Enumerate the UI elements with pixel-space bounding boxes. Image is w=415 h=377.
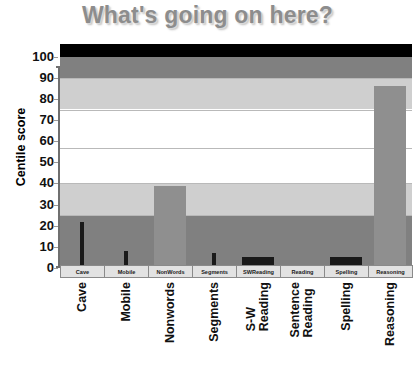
y-tickmark-40 [53, 183, 58, 184]
x-label-line: Nonwords [164, 282, 177, 343]
y-tick-10: 10 [40, 242, 54, 252]
legend-cell-reasoning: Reasoning [368, 265, 413, 278]
y-tickmark-60 [53, 141, 58, 142]
x-label-slot-2: Nonwords [148, 280, 192, 376]
x-label-slot-4: S-WReading [236, 280, 280, 376]
x-label-nonwords: Nonwords [164, 282, 177, 343]
x-label-line: Reading [258, 282, 271, 331]
bar-cave [80, 222, 84, 268]
y-tick-80: 80 [40, 94, 54, 104]
chart-screenshot: What's going on here? Centile score 1009… [0, 0, 415, 377]
x-label-line: Reasoning [384, 282, 397, 346]
y-tick-50: 50 [40, 157, 54, 167]
x-label-s-w-reading: S-WReading [245, 282, 271, 331]
bar-nonwords [154, 186, 186, 268]
x-label-sentence-reading: SentenceReading [289, 282, 315, 338]
x-label-slot-1: Mobile [104, 280, 148, 376]
y-tickmark-90 [53, 78, 58, 79]
y-tickmark-100 [53, 57, 58, 58]
x-label-line: Reading [302, 282, 315, 338]
y-tickmark-70 [53, 120, 58, 121]
y-tickmark-30 [53, 205, 58, 206]
y-tick-40: 40 [40, 178, 54, 188]
x-label-spelling: Spelling [340, 282, 353, 331]
y-axis-tick-labels: 1009080706050403020100 [24, 60, 54, 276]
y-tickmark-50 [53, 162, 58, 163]
x-label-line: Segments [208, 282, 221, 342]
page-title: What's going on here? [0, 2, 415, 29]
legend-cell-reading: Reading [280, 265, 325, 278]
bar-reasoning [374, 86, 406, 268]
y-tick-70: 70 [40, 115, 54, 125]
x-label-cave: Cave [76, 282, 89, 312]
x-label-slot-3: Segments [192, 280, 236, 376]
y-tick-60: 60 [40, 136, 54, 146]
legend-cell-nonwords: NonWords [148, 265, 193, 278]
legend-cell-swreading: SWReading [236, 265, 281, 278]
plot-area [60, 44, 412, 268]
y-tickmark-0 [53, 268, 58, 269]
y-tickmark-80 [53, 99, 58, 100]
y-tick-30: 30 [40, 200, 54, 210]
x-label-slot-7: Reasoning [368, 280, 412, 376]
legend-cell-spelling: Spelling [324, 265, 369, 278]
y-tick-100: 100 [32, 52, 54, 62]
x-label-slot-0: Cave [60, 280, 104, 376]
legend-cell-segments: Segments [192, 265, 237, 278]
y-tick-20: 20 [40, 221, 54, 231]
x-label-line: Cave [76, 282, 89, 312]
y-tick-90: 90 [40, 73, 54, 83]
legend-cell-mobile: Mobile [104, 265, 149, 278]
category-legend-strip: CaveMobileNonWordsSegmentsSWReadingReadi… [60, 265, 412, 278]
x-label-reasoning: Reasoning [384, 282, 397, 346]
y-tickmark-10 [53, 247, 58, 248]
x-label-slot-6: Spelling [324, 280, 368, 376]
x-label-line: Spelling [340, 282, 353, 331]
x-label-mobile: Mobile [120, 282, 133, 322]
y-tickmark-20 [53, 226, 58, 227]
x-label-slot-5: SentenceReading [280, 280, 324, 376]
x-label-segments: Segments [208, 282, 221, 342]
x-axis-labels: CaveMobileNonwordsSegmentsS-WReadingSent… [60, 280, 412, 376]
x-label-line: Mobile [120, 282, 133, 322]
bar-series [60, 44, 412, 268]
legend-cell-cave: Cave [60, 265, 105, 278]
